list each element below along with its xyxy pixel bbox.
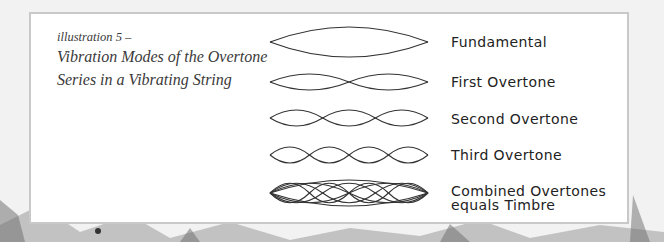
wave-mode-3-seg4-lower [270,147,428,163]
mode-label-first-overtone: First Overtone [451,75,556,89]
wave-mode-0-seg1-upper [270,27,428,42]
mode-label-combined-line1: Combined Overtones [451,184,606,198]
wave-mode-2-seg3-upper [270,110,428,126]
mode-label-second-overtone: Second Overtone [451,112,578,126]
mode-label-third-overtone: Third Overtone [451,148,562,162]
mode-label-combined: Combined Overtones equals Timbre [451,184,606,212]
wave-mode-4-seg1-lower [270,193,428,206]
wave-mode-1-seg2-lower [270,74,428,90]
mode-label-fundamental: Fundamental [451,35,547,49]
mode-label-combined-line2: equals Timbre [451,198,606,212]
wave-mode-2-seg3-lower [270,110,428,126]
wave-mode-0-seg1-lower [270,42,428,57]
wave-mode-4-seg1-upper [270,180,428,193]
